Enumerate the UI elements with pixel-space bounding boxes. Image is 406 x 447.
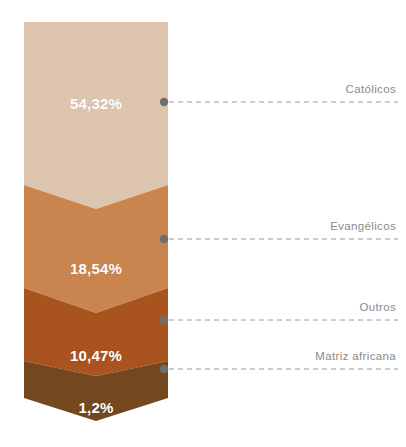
connector-lines	[160, 98, 398, 373]
funnel-chart: 54,32%18,54%10,47%1,2% CatólicosEvangéli…	[0, 0, 406, 447]
connector-dot-4[interactable]	[160, 365, 168, 373]
connector-dot-1[interactable]	[160, 98, 168, 106]
category-label-4: Matriz africana	[315, 350, 396, 362]
category-label-2: Evangélicos	[330, 220, 396, 232]
value-label-3: 10,47%	[70, 347, 122, 364]
value-label-2: 18,54%	[70, 260, 122, 277]
value-label-4: 1,2%	[79, 399, 114, 416]
category-label-1: Católicos	[346, 83, 396, 95]
connector-dot-2[interactable]	[160, 235, 168, 243]
value-label-1: 54,32%	[70, 95, 122, 112]
category-label-3: Outros	[359, 301, 396, 313]
connector-dot-3[interactable]	[160, 316, 168, 324]
funnel-segment-1[interactable]	[24, 22, 168, 209]
